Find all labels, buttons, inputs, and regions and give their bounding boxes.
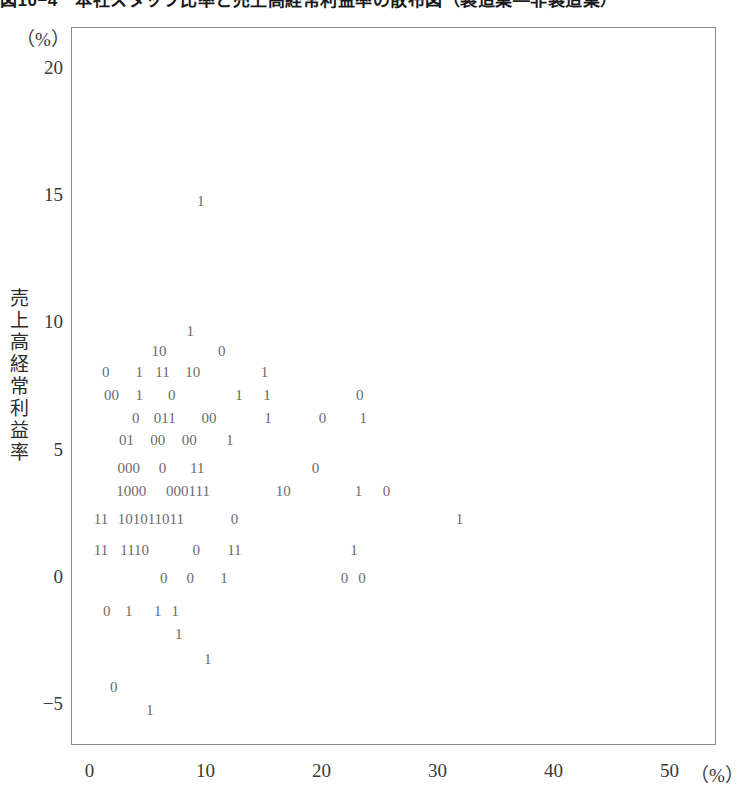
data-point-marker: 1 xyxy=(355,484,363,499)
data-point-marker: 1 xyxy=(359,410,367,425)
data-point-marker: 0 xyxy=(358,570,366,585)
data-point-marker: 11 xyxy=(94,512,108,527)
data-point-marker: 0 xyxy=(218,344,226,359)
x-axis-tick-label: 50 xyxy=(645,760,695,782)
data-point-marker: 11 xyxy=(190,461,204,476)
data-point-marker: 1 xyxy=(350,542,358,557)
x-axis-tick-label: 20 xyxy=(297,760,347,782)
data-point-marker: 00 xyxy=(104,387,119,402)
data-point-marker: 101011011 xyxy=(118,512,184,527)
data-point-marker: 0 xyxy=(341,570,349,585)
y-axis-tick-label: 0 xyxy=(23,566,63,588)
data-point-marker: 1 xyxy=(220,570,228,585)
data-point-marker: 00 xyxy=(150,433,165,448)
data-point-marker: 1000 xyxy=(116,484,146,499)
data-point-marker: 0 xyxy=(319,410,327,425)
y-axis-tick-label: 10 xyxy=(23,311,63,333)
y-axis-tick-label: −5 xyxy=(23,693,63,715)
data-point-marker: 11 xyxy=(227,542,241,557)
data-point-marker: 1110 xyxy=(120,542,149,557)
y-axis-title-char: 利 xyxy=(8,398,30,420)
data-point-marker: 1 xyxy=(171,604,179,619)
data-point-marker: 000111 xyxy=(166,484,210,499)
data-point-marker: 0 xyxy=(383,484,391,499)
data-point-marker: 1 xyxy=(125,604,133,619)
data-point-marker: 1 xyxy=(263,387,271,402)
data-point-marker: 1 xyxy=(175,626,183,641)
data-point-marker: 1 xyxy=(204,652,212,667)
data-point-marker: 0 xyxy=(132,410,140,425)
x-axis-tick-label: 0 xyxy=(65,760,115,782)
data-point-marker: 0 xyxy=(312,461,320,476)
data-point-marker: 10 xyxy=(152,344,167,359)
data-point-marker: 1 xyxy=(146,703,154,718)
data-point-marker: 1 xyxy=(187,323,195,338)
data-point-marker: 011 xyxy=(154,410,176,425)
y-axis-tick-label: 20 xyxy=(23,57,63,79)
data-point-marker: 0 xyxy=(168,387,176,402)
data-point-marker: 10 xyxy=(276,484,291,499)
data-point-marker: 0 xyxy=(160,570,168,585)
x-axis-tick-label: 10 xyxy=(181,760,231,782)
data-point-marker: 11 xyxy=(94,542,108,557)
data-point-marker: 01 xyxy=(119,433,134,448)
data-point-marker: 0 xyxy=(103,604,111,619)
data-point-marker: 0 xyxy=(356,387,364,402)
data-point-marker: 1 xyxy=(456,512,464,527)
x-axis-tick-label: 40 xyxy=(529,760,579,782)
data-point-marker: 000 xyxy=(118,461,141,476)
data-point-marker: 1 xyxy=(264,410,272,425)
data-point-marker: 00 xyxy=(182,433,197,448)
y-axis-unit-label: （%） xyxy=(16,24,70,51)
y-axis-tick-label: 15 xyxy=(23,184,63,206)
x-axis-tick-label: 30 xyxy=(413,760,463,782)
data-point-marker: 0 xyxy=(159,461,167,476)
data-point-marker: 0 xyxy=(102,364,110,379)
data-point-marker: 0 xyxy=(187,570,195,585)
data-point-marker: 0 xyxy=(231,512,239,527)
data-point-marker: 0 xyxy=(192,542,200,557)
data-point-marker: 1 xyxy=(197,194,205,209)
figure-title: 図10−4 本社スタッフ比率と売上高経常利益率の散布図（製造業―非製造業） xyxy=(0,0,738,11)
data-point-marker: 1 xyxy=(261,364,269,379)
data-point-marker: 1 xyxy=(154,604,162,619)
data-point-marker: 10 xyxy=(185,364,200,379)
y-axis-title-char: 高 xyxy=(8,332,30,354)
y-axis-title-char: 常 xyxy=(8,376,30,398)
data-point-marker: 0 xyxy=(110,680,118,695)
data-point-marker: 1 xyxy=(136,364,144,379)
y-axis-title-char: 経 xyxy=(8,354,30,376)
data-point-marker: 1 xyxy=(235,387,243,402)
data-point-marker: 1 xyxy=(226,433,234,448)
scatter-plot-area: 1110001111010010110001100101010000100001… xyxy=(71,27,716,745)
y-axis-title-char: 売 xyxy=(8,288,30,310)
y-axis-tick-label: 5 xyxy=(23,439,63,461)
data-point-marker: 00 xyxy=(201,410,216,425)
data-point-marker: 1 xyxy=(136,387,144,402)
x-axis-unit-label: （%） xyxy=(690,760,738,787)
data-point-marker: 11 xyxy=(155,364,169,379)
